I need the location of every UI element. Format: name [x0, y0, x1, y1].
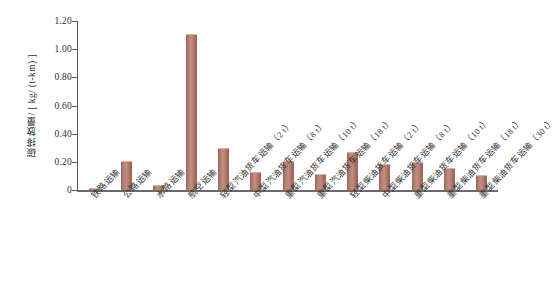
y-tick-mark — [72, 21, 77, 22]
x-tick-label: 航空运输 — [187, 167, 219, 200]
y-tick-mark — [72, 49, 77, 50]
y-tick-mark — [72, 77, 77, 78]
x-tick-label: 铁路运输 — [90, 167, 122, 200]
y-tick-mark — [72, 106, 77, 107]
y-tick-mark — [72, 134, 77, 135]
x-tick-label: 公路运输 — [122, 167, 154, 200]
y-tick-mark — [72, 190, 77, 191]
y-tick-mark — [72, 162, 77, 163]
x-tick-label: 水路运输 — [155, 167, 187, 200]
